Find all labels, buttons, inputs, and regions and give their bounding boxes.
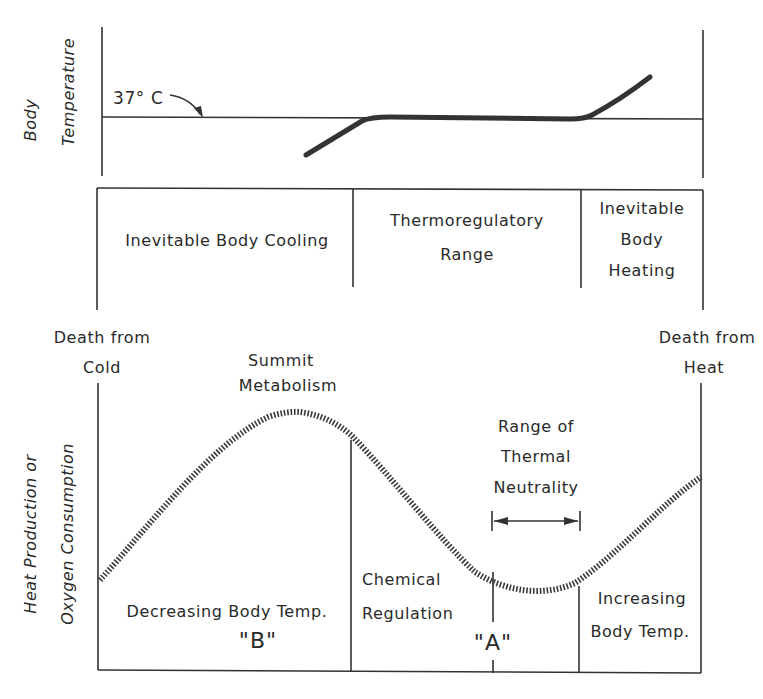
summit-metabolism-line1: Summit — [248, 351, 314, 370]
region-chemical-label-line1: Chemical — [362, 570, 441, 589]
bottom-baseline — [98, 670, 701, 673]
body-temperature-axis-label-line1: Body — [21, 99, 40, 141]
zones-top-border — [97, 188, 703, 190]
region-b-marker: "B" — [239, 628, 277, 653]
reference-arrow-icon — [170, 95, 200, 114]
neutrality-arrow-left-icon — [494, 517, 508, 525]
death-from-cold-line2: Cold — [83, 358, 121, 377]
reference-label: 37° C — [113, 88, 163, 108]
thermoregulation-diagram: Body Temperature 37° C Inevitable Body C… — [0, 0, 763, 699]
zone-cooling-label: Inevitable Body Cooling — [125, 231, 328, 250]
thermal-neutrality-line3: Neutrality — [493, 478, 578, 497]
death-from-cold-line1: Death from — [54, 328, 151, 347]
body-temperature-axis-label-line2: Temperature — [59, 38, 78, 146]
summit-metabolism-line2: Metabolism — [239, 376, 337, 395]
zone-heating-label-line2: Body — [621, 230, 664, 249]
death-boundaries: Death from Cold Death from Heat — [54, 328, 756, 377]
heat-production-axis-label-line1: Heat Production or — [21, 453, 40, 613]
thermal-neutrality-line2: Thermal — [500, 447, 571, 466]
death-from-heat-line2: Heat — [684, 358, 724, 377]
heat-production-panel: Heat Production or Oxygen Consumption Su… — [21, 351, 701, 673]
heat-production-axis-label-line2: Oxygen Consumption — [58, 443, 77, 625]
zone-thermoregulatory-label-line1: Thermoregulatory — [389, 211, 544, 230]
neutrality-arrow-right-icon — [564, 517, 578, 525]
region-decreasing-label: Decreasing Body Temp. — [127, 602, 328, 621]
thermal-neutrality-line1: Range of — [498, 417, 574, 436]
death-from-heat-line1: Death from — [659, 328, 756, 347]
zones-panel: Inevitable Body Cooling Thermoregulatory… — [97, 188, 703, 310]
region-increasing-label-line2: Body Temp. — [590, 622, 689, 641]
zone-heating-label-line3: Heating — [609, 261, 676, 280]
region-increasing-label-line1: Increasing — [598, 589, 687, 608]
zone-heating-label-line1: Inevitable — [599, 199, 684, 218]
body-temperature-curve — [306, 77, 650, 155]
zone-thermoregulatory-label-line2: Range — [440, 245, 494, 264]
region-chemical-label-line2: Regulation — [362, 604, 453, 623]
heat-production-curve — [100, 412, 701, 591]
region-a-marker: "A" — [474, 630, 512, 655]
reference-arrowhead-icon — [194, 106, 203, 118]
body-temperature-panel: Body Temperature 37° C — [21, 27, 703, 178]
